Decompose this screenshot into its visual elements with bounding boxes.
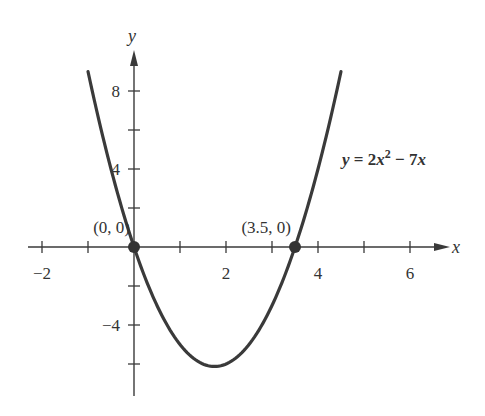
axes (28, 50, 450, 396)
intercept-points: (0, 0)(3.5, 0) (93, 218, 301, 253)
intercept-point (289, 241, 301, 253)
equation-label: y = 2x2 − 7x (340, 147, 426, 169)
point-label: (0, 0) (93, 218, 130, 237)
parabola-chart: −224684−4 (0, 0)(3.5, 0) x y y = 2x2 − 7… (0, 0, 485, 416)
y-tick-label: 8 (112, 82, 121, 101)
point-label: (3.5, 0) (241, 218, 291, 237)
x-axis-label: x (451, 237, 460, 257)
y-tick-label: −4 (102, 316, 121, 335)
intercept-point (128, 241, 140, 253)
x-tick-label: 4 (314, 264, 323, 283)
x-tick-label: −2 (33, 264, 51, 283)
y-axis-label: y (126, 26, 136, 46)
tick-labels: −224684−4 (33, 82, 414, 335)
x-tick-label: 6 (406, 264, 415, 283)
x-tick-label: 2 (222, 264, 231, 283)
